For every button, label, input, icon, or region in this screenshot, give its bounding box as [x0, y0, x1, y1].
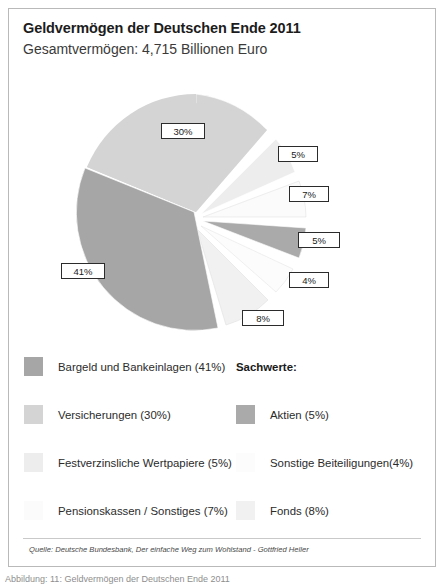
legend-swatch-festverzinsliche — [24, 453, 43, 472]
figure-caption: Abbildung: 11: Geldvermögen der Deutsche… — [5, 574, 230, 584]
legend-swatch-sonstige-beteiligungen — [236, 453, 255, 472]
pie-label-5-festverzinsliche: 5% — [278, 146, 318, 162]
pie-chart-svg — [0, 0, 446, 348]
legend-label-versicherungen: Versicherungen (30%) — [58, 409, 171, 421]
pie-label-8-fonds: 8% — [242, 310, 284, 326]
figure-root: Geldvermögen der Deutschen Ende 2011 Ges… — [0, 0, 446, 584]
legend-item-aktien: Aktien (5%) — [236, 405, 329, 424]
legend-item-sonstige-beteiligungen: Sonstige Beiteiligungen(4%) — [236, 453, 413, 472]
pie-label-4-sonstige: 4% — [289, 272, 329, 288]
pie-label-7-pensionskassen: 7% — [289, 186, 329, 202]
source-divider — [23, 538, 421, 539]
legend-label-bargeld: Bargeld und Bankeinlagen (41%) — [58, 361, 225, 373]
legend-swatch-pensionskassen — [24, 501, 43, 520]
legend-label-fonds: Fonds (8%) — [270, 505, 329, 517]
pie-label-30: 30% — [161, 123, 205, 139]
pie-label-41-bargeld: 41% — [61, 263, 105, 279]
legend-swatch-aktien — [236, 405, 255, 424]
source-note: Quelle: Deutsche Bundesbank, Der einfach… — [29, 545, 309, 554]
legend-swatch-bargeld — [24, 357, 43, 376]
legend-label-pensionskassen: Pensionskassen / Sonstiges (7%) — [58, 505, 228, 517]
legend-label-aktien: Aktien (5%) — [270, 409, 329, 421]
legend-swatch-fonds — [236, 501, 255, 520]
legend-item-bargeld: Bargeld und Bankeinlagen (41%) — [24, 357, 225, 376]
pie-label-5-aktien: 5% — [298, 232, 340, 248]
legend-item-festverzinsliche: Festverzinsliche Wertpapiere (5%) — [24, 453, 232, 472]
legend-label-festverzinsliche: Festverzinsliche Wertpapiere (5%) — [58, 457, 232, 469]
legend-header-sachwerte: Sachwerte: — [236, 361, 297, 373]
legend-label-sonstige-beteiligungen: Sonstige Beiteiligungen(4%) — [270, 457, 413, 469]
legend-item-versicherungen: Versicherungen (30%) — [24, 405, 171, 424]
legend: Bargeld und Bankeinlagen (41%) Versicher… — [0, 348, 446, 533]
legend-item-fonds: Fonds (8%) — [236, 501, 329, 520]
legend-item-pensionskassen: Pensionskassen / Sonstiges (7%) — [24, 501, 228, 520]
pie-chart-area: 30% 5% 7% 5% 4% 8% 41% — [0, 0, 446, 348]
legend-swatch-versicherungen — [24, 405, 43, 424]
